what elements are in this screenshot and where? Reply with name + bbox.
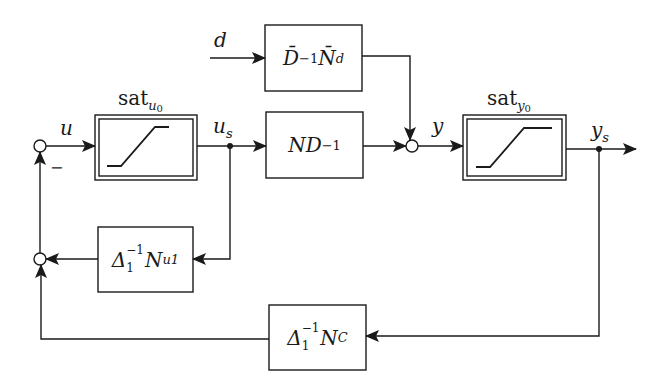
dist-p1-sup: −1: [299, 51, 318, 66]
branch-point-ys: [596, 146, 602, 152]
dist-p2-sub: d: [336, 51, 344, 66]
dist-p2: N̄: [318, 46, 336, 70]
aw-p2-sub: u1: [163, 252, 180, 267]
ctrl-p1-sub: 1: [302, 340, 320, 352]
ctrl-p2: N: [320, 326, 338, 350]
signal-label-d: d: [214, 30, 227, 50]
dist-p1: D̄: [283, 46, 299, 70]
aw-p1: Δ: [112, 248, 126, 272]
sat-u-title-subsub: 0: [157, 103, 163, 114]
sat-u-title-sub: u: [148, 98, 156, 113]
aw-p1-sup: −1: [126, 244, 144, 256]
ctrl-p1: Δ: [287, 326, 301, 350]
minus-sign: −: [50, 160, 63, 176]
sum-junction-bottom-left: [34, 253, 46, 265]
sat-y-title-sub: y: [517, 98, 524, 113]
sat-u-title-main: sat: [118, 86, 148, 110]
signal-label-ys: ys: [591, 120, 609, 144]
disturbance-block-label: D̄−1N̄d: [265, 25, 362, 91]
sat-u-title: satu0: [118, 88, 163, 114]
plant-p1: ND: [288, 133, 322, 157]
sat-u-block: [95, 115, 197, 180]
signal-label-y: y: [432, 116, 443, 136]
ys-sub: s: [602, 130, 609, 145]
sat-y-title: saty0: [487, 88, 531, 114]
ctrl-p2-sub: C: [338, 330, 348, 345]
sum-junction-top-left: [34, 140, 46, 152]
aw-p1-sub: 1: [126, 262, 144, 274]
ys-main: y: [591, 118, 602, 142]
sum-junction-right: [406, 140, 418, 152]
controller-block-label: Δ−11NC: [269, 305, 366, 370]
aw-p2: N: [145, 248, 163, 272]
signal-label-u: u: [60, 118, 73, 138]
us-main: u: [213, 114, 226, 138]
us-sub: s: [226, 126, 233, 141]
plant-block-label: ND−1: [266, 112, 363, 178]
sat-y-title-main: sat: [487, 86, 517, 110]
ctrl-p1-sup: −1: [302, 322, 320, 334]
anti-windup-block-label: Δ−11Nu1: [98, 227, 193, 292]
sat-y-title-subsub: 0: [525, 103, 531, 114]
sat-y-block: [463, 115, 566, 180]
plant-p1-sup: −1: [322, 138, 341, 153]
signal-label-us: us: [213, 116, 233, 140]
branch-point-us: [227, 143, 233, 149]
